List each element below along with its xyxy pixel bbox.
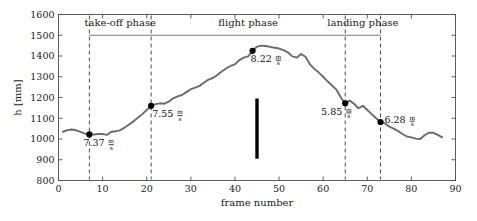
- x-tick-label: 20: [141, 183, 153, 194]
- annotation-unit-denominator: s: [277, 59, 280, 66]
- flight-height-chart: 0102030405060708090800900100011001200130…: [0, 0, 477, 221]
- x-tick-label: 10: [97, 183, 109, 194]
- x-axis-title: frame number: [221, 197, 294, 208]
- annotation-value: 7.55: [152, 108, 173, 119]
- x-tick-label: 0: [55, 183, 61, 194]
- x-tick-label: 30: [185, 183, 197, 194]
- annotation-value: 6.28: [385, 114, 406, 125]
- x-tick-label: 40: [229, 183, 241, 194]
- y-tick-label: 1000: [30, 133, 54, 144]
- phase-label: flight phase: [218, 17, 278, 28]
- annotation-unit-denominator: s: [411, 120, 414, 127]
- x-tick-label: 80: [405, 183, 417, 194]
- phase-label: landing phase: [327, 17, 398, 28]
- annotation-unit-denominator: s: [347, 112, 350, 119]
- annotation-unit-denominator: s: [178, 115, 181, 122]
- y-tick-label: 1300: [30, 71, 54, 82]
- annotation-value: 5.85: [321, 106, 342, 117]
- annotation-value: 8.22: [251, 53, 272, 64]
- y-tick-label: 1100: [30, 113, 54, 124]
- x-tick-label: 50: [273, 183, 285, 194]
- annotation-value: 7.37: [83, 137, 104, 148]
- y-tick-label: 1600: [30, 9, 54, 20]
- annotation-unit-denominator: s: [110, 144, 113, 151]
- y-tick-label: 1200: [30, 92, 54, 103]
- y-tick-label: 1500: [30, 30, 54, 41]
- x-tick-label: 90: [449, 183, 461, 194]
- annotation-marker: [377, 119, 383, 125]
- y-axis-title: h [mm]: [12, 79, 23, 115]
- y-tick-label: 900: [36, 154, 54, 165]
- figure-container: 0102030405060708090800900100011001200130…: [0, 0, 477, 221]
- x-tick-label: 60: [317, 183, 329, 194]
- x-tick-label: 70: [361, 183, 373, 194]
- phase-label: take-off phase: [85, 17, 157, 28]
- y-tick-label: 1400: [30, 50, 54, 61]
- y-tick-label: 800: [36, 175, 54, 186]
